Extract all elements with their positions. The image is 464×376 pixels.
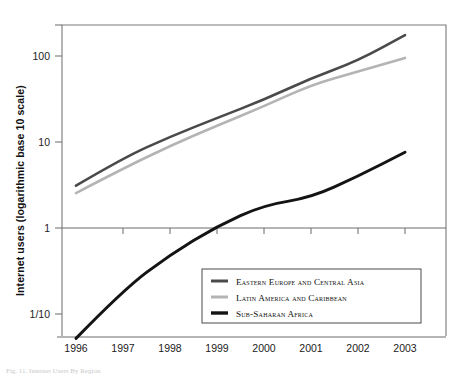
y-tick-label-100: 100 — [32, 50, 50, 62]
x-tick-label-2003: 2003 — [393, 342, 417, 354]
legend-label-sub-saharan-africa: Sub-Saharan Africa — [236, 309, 313, 319]
figure-internet-users: 100 10 1 1/10 1996 1997 1998 1999 2000 2… — [0, 0, 464, 376]
chart-legend: Eastern Europe and Central Asia Latin Am… — [202, 269, 421, 323]
y-axis-title: Internet users (logarithmic base 10 scal… — [14, 85, 26, 296]
figure-caption: Fig. 11. Internet Users By Region — [6, 367, 101, 375]
x-axis-ticks-on-baseline — [123, 228, 405, 234]
y-axis-ticks — [55, 25, 62, 314]
line-chart-internet-users: 100 10 1 1/10 1996 1997 1998 1999 2000 2… — [0, 0, 464, 376]
x-tick-label-1997: 1997 — [111, 342, 135, 354]
x-tick-label-1998: 1998 — [158, 342, 182, 354]
y-tick-label-tenth: 1/10 — [30, 308, 51, 320]
x-tick-label-2002: 2002 — [346, 342, 370, 354]
x-tick-label-2000: 2000 — [252, 342, 276, 354]
x-tick-label-2001: 2001 — [299, 342, 323, 354]
x-tick-label-1996: 1996 — [64, 342, 88, 354]
legend-label-latin-america: Latin America and Caribbean — [236, 293, 347, 303]
x-tick-label-1999: 1999 — [205, 342, 229, 354]
y-tick-label-1: 1 — [44, 222, 50, 234]
y-tick-label-10: 10 — [38, 136, 50, 148]
legend-label-eastern-europe: Eastern Europe and Central Asia — [236, 277, 365, 287]
series-line-eastern-europe-and-central-asia — [76, 35, 405, 186]
series-line-latin-america-and-caribbean — [76, 58, 405, 193]
